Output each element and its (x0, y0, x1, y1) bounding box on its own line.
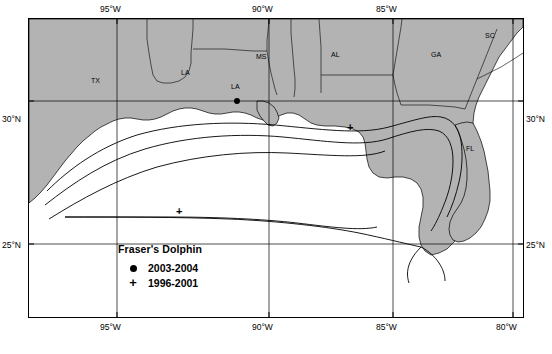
legend: Fraser's Dolphin 2003-2004 + 1996-2001 (118, 243, 258, 290)
region-label-ga: GA (431, 51, 441, 58)
axis-tick-bottom-3: 80°W (496, 322, 517, 332)
legend-entry-label-0: 2003-2004 (148, 262, 198, 274)
axis-tick-left-1: 25°N (2, 240, 21, 250)
region-label-al: AL (331, 51, 340, 58)
sighting-point-1996-2001-1: + (176, 207, 182, 216)
legend-title: Fraser's Dolphin (118, 243, 258, 255)
axis-tick-top-0: 95°W (100, 4, 121, 14)
region-label-la-1: LA (181, 69, 190, 76)
sighting-point-2003-2004-0 (234, 98, 240, 104)
region-label-fl: FL (466, 145, 474, 152)
region-label-sc: SC (485, 32, 495, 39)
region-label-la-2: LA (231, 83, 240, 90)
axis-tick-top-1: 90°W (252, 4, 273, 14)
axis-tick-right-1: 25°N (526, 240, 545, 250)
axis-tick-bottom-0: 95°W (100, 322, 121, 332)
sighting-point-1996-2001-0: + (347, 123, 353, 132)
axis-tick-left-0: 30°N (2, 114, 21, 124)
axis-tick-right-0: 30°N (526, 114, 545, 124)
legend-entry-2003-2004: 2003-2004 (124, 260, 258, 275)
map-graphic (29, 19, 523, 317)
axis-tick-bottom-2: 85°W (376, 322, 397, 332)
filled-circle-icon (124, 262, 142, 273)
region-label-ms: MS (256, 53, 267, 60)
plus-icon: + (124, 277, 142, 289)
axis-tick-top-2: 85°W (376, 4, 397, 14)
figure-container: 95°W 90°W 85°W 95°W 90°W 85°W 80°W 30°N … (0, 0, 552, 354)
legend-entry-1996-2001: + 1996-2001 (124, 275, 258, 290)
legend-entry-label-1: 1996-2001 (148, 277, 198, 289)
region-label-tx: TX (91, 77, 100, 84)
axis-tick-bottom-1: 90°W (252, 322, 273, 332)
map-frame: TX LA LA MS AL GA SC FL + + (28, 18, 524, 318)
